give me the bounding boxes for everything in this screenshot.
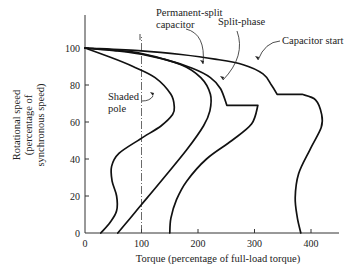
y-tick-label: 20 <box>70 191 80 202</box>
y-tick-label: 80 <box>70 80 80 91</box>
annotation-label-permanent-split-capacitor: capacitor <box>156 19 195 30</box>
annotation-leader-permanent-split-capacitor <box>186 29 203 64</box>
x-tick-label: 200 <box>191 238 206 249</box>
x-tick-label: 400 <box>304 238 319 249</box>
x-tick-label: 300 <box>247 238 262 249</box>
y-tick-label: 100 <box>65 43 80 54</box>
annotation-leader-split-phase <box>223 31 240 80</box>
annotation-label-capacitor-start: Capacitor start <box>282 35 344 46</box>
curve-capacitor-start <box>85 48 323 233</box>
arrowhead-icon <box>150 92 154 96</box>
curve-shaded-pole <box>85 48 174 233</box>
curve-permanent-split-capacitor <box>85 48 211 233</box>
annotation-leader-capacitor-start <box>258 41 280 60</box>
annotation-label-shaded-pole: Shaded <box>108 91 140 102</box>
y-axis-title-line: (percentage of <box>23 94 35 155</box>
y-tick-label: 0 <box>75 228 80 239</box>
torque-speed-chart: 0100200300400 020406080100 ShadedpolePer… <box>0 0 362 274</box>
annotation-label-shaded-pole: pole <box>108 103 126 114</box>
curve-split-phase <box>85 48 258 233</box>
x-axis-title: Torque (percentage of full-load torque) <box>136 253 301 265</box>
x-tick-label: 0 <box>83 238 88 249</box>
y-axis-title-line: Rotational speed <box>11 89 22 160</box>
curves <box>85 48 323 233</box>
y-axis-title-line: synchronous speed) <box>35 83 47 167</box>
y-axis-title: Rotational speed(percentage ofsynchronou… <box>11 83 47 167</box>
x-tick-label: 100 <box>134 238 149 249</box>
y-tick-label: 40 <box>70 154 80 165</box>
annotation-label-permanent-split-capacitor: Permanent-split <box>156 7 223 18</box>
annotation-leader-shaded-pole <box>142 96 153 101</box>
annotation-label-split-phase: Split-phase <box>218 16 266 27</box>
y-tick-label: 60 <box>70 117 80 128</box>
